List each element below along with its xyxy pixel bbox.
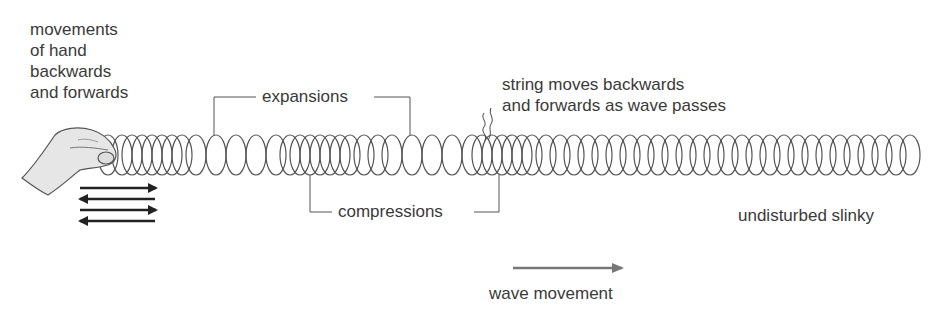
coil-loop — [382, 135, 402, 175]
slinky-coils — [98, 135, 920, 175]
coil-loop — [226, 135, 246, 175]
coil-loop — [186, 135, 206, 175]
hand-icon — [22, 128, 116, 195]
coil-loop — [402, 135, 422, 175]
coil-loop — [422, 135, 442, 175]
coil-loop — [206, 135, 226, 175]
coil-loop — [442, 135, 462, 175]
coil-loop — [246, 135, 266, 175]
slinky-diagram — [0, 0, 935, 313]
coil-loop — [900, 135, 920, 175]
expansions-bracket — [214, 97, 410, 136]
compressions-bracket — [310, 175, 499, 212]
back-forth-arrows-icon — [80, 188, 156, 221]
